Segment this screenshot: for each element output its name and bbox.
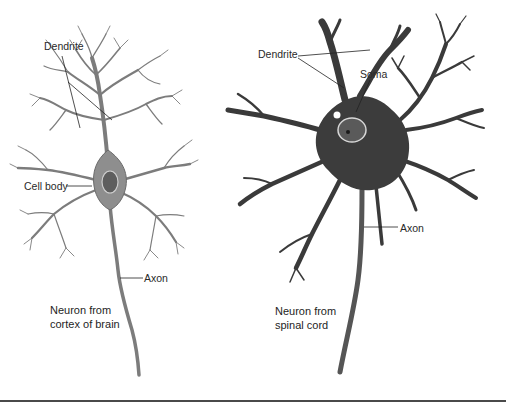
right-nucleus bbox=[338, 118, 366, 142]
right-neuron-drawing bbox=[228, 14, 484, 372]
right-soma-label: Soma bbox=[360, 68, 387, 80]
left-dendrite-label: Dendrite bbox=[44, 40, 84, 52]
nucleus-granule bbox=[346, 130, 350, 134]
right-neuron-caption: Neuron from spinal cord bbox=[275, 304, 336, 332]
left-neuron-caption: Neuron from cortex of brain bbox=[50, 303, 120, 331]
right-dendrite-label: Dendrite bbox=[258, 48, 298, 60]
left-caption-line1: Neuron from bbox=[50, 303, 120, 317]
right-nucleolus bbox=[334, 112, 341, 119]
right-axon-label: Axon bbox=[400, 222, 424, 234]
left-nucleus bbox=[102, 171, 118, 193]
neuron-illustration bbox=[0, 0, 506, 402]
right-cell-body bbox=[316, 96, 409, 190]
neuron-figure: Dendrite Cell body Axon Neuron from cort… bbox=[0, 0, 506, 402]
right-caption-line2: spinal cord bbox=[275, 318, 336, 332]
left-axon-label: Axon bbox=[144, 272, 168, 284]
left-cell-body-label: Cell body bbox=[24, 180, 68, 192]
right-caption-line1: Neuron from bbox=[275, 304, 336, 318]
left-caption-line2: cortex of brain bbox=[50, 317, 120, 331]
